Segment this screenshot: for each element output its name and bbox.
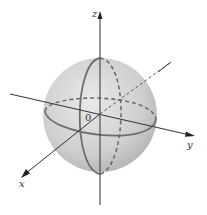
y-axis-arrowhead (185, 132, 195, 137)
x-axis-arrowhead (21, 169, 30, 178)
sphere-diagram: z y x 0 (0, 0, 207, 215)
y-axis-label: y (186, 139, 193, 150)
x-axis-label: x (19, 178, 25, 189)
x-axis-back-outside (158, 62, 171, 72)
z-axis-label: z (91, 8, 98, 19)
sphere-diagram-svg: z y x 0 (0, 0, 207, 215)
origin-label: 0 (85, 112, 91, 123)
z-axis-arrowhead (98, 11, 103, 19)
